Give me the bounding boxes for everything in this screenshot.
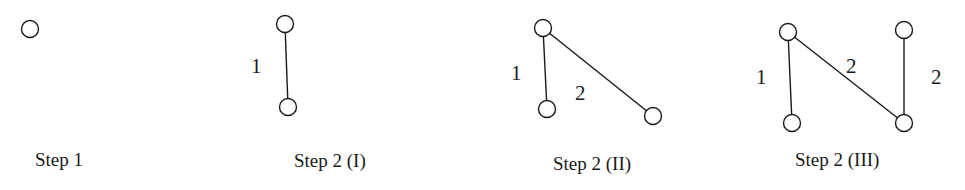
edge-weight-label: 1 [511, 61, 522, 85]
edge [285, 24, 288, 107]
node [535, 20, 552, 37]
step-2-i: 1 Step 2 (I) [251, 16, 366, 173]
step-caption: Step 2 (I) [294, 150, 366, 172]
edge-weight-label: 1 [251, 54, 262, 78]
node [280, 99, 297, 116]
node [784, 115, 801, 132]
node [896, 22, 913, 39]
edge [543, 28, 653, 116]
edge [543, 28, 547, 109]
edge-weight-label: 2 [931, 65, 942, 89]
step-2-ii: 1 2 Step 2 (II) [511, 20, 662, 176]
edge [788, 32, 792, 123]
step-1: Step 1 [22, 21, 84, 171]
node [780, 24, 797, 41]
edge-weight-label: 1 [756, 65, 767, 89]
node [277, 16, 294, 33]
node [22, 21, 39, 38]
step-2-iii: 1 2 2 Step 2 (III) [756, 22, 942, 172]
step-caption: Step 2 (III) [795, 149, 879, 171]
node [645, 108, 662, 125]
edge-weight-label: 2 [575, 81, 586, 105]
edge-weight-label: 2 [846, 54, 857, 78]
node [539, 101, 556, 118]
step-caption: Step 2 (II) [553, 153, 631, 175]
graph-construction-diagram: Step 1 1 Step 2 (I) 1 2 Step 2 (II) 1 2 … [0, 0, 965, 190]
node [896, 115, 913, 132]
step-caption: Step 1 [35, 149, 83, 170]
